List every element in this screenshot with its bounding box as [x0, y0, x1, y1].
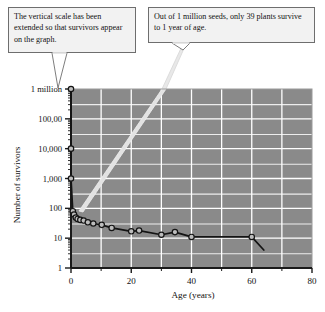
y-axis-tick-label: 10 [53, 233, 62, 243]
x-axis-tick-label: 40 [187, 276, 197, 286]
callout-leader-lines-lower [162, 44, 186, 89]
y-axis-tick-labels: 1101001,00010,000100,001 million [31, 84, 63, 273]
x-axis-tick-label: 60 [247, 276, 257, 286]
y-axis-tick-label: 10,000 [38, 144, 62, 154]
y-axis-tick-label: 1,000 [43, 174, 62, 184]
survivorship-chart: 1101001,00010,000100,001 million 0204060… [0, 0, 325, 312]
y-axis-tick-label: 1 [58, 263, 62, 273]
y-axis-tick-label: 100 [49, 203, 62, 213]
survivorship-figure: The vertical scale has been extended so … [0, 0, 325, 312]
x-axis-title: Age (years) [171, 290, 214, 300]
x-axis-tick-labels: 020406080 [69, 276, 317, 286]
y-axis-title: Number of survivors [12, 146, 22, 223]
x-axis-tick-label: 80 [308, 276, 318, 286]
x-axis-tick-label: 0 [69, 276, 74, 286]
y-axis-tick-label: 100,00 [38, 114, 62, 124]
x-axis-tick-label: 20 [127, 276, 137, 286]
